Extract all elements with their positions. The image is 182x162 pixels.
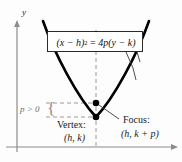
x-axis xyxy=(6,144,178,150)
y-axis-label: y xyxy=(22,8,26,17)
vertex-label: Vertex: xyxy=(57,120,86,130)
vertex-coordinates: (h, k) xyxy=(64,133,85,143)
focus-coordinates: (h, k + p) xyxy=(121,129,159,139)
y-axis xyxy=(14,20,20,152)
parabola-figure: y (x − h)2 = 4p(y − k) p > 0 { Vertex: (… xyxy=(0,0,182,162)
equation-lhs-base: (x − h) xyxy=(56,37,84,48)
equation-box: (x − h)2 = 4p(y − k) xyxy=(47,31,143,52)
vertex-point xyxy=(93,114,100,121)
equation-rhs: 4p(y − k) xyxy=(98,37,135,48)
p-brace-icon: { xyxy=(47,100,55,117)
equation-leader-line-second xyxy=(137,52,140,62)
equation-text: (x − h)2 = 4p(y − k) xyxy=(48,32,144,53)
focus-label: Focus: xyxy=(123,115,150,125)
focus-point xyxy=(93,100,100,107)
p-condition-label: p > 0 xyxy=(20,105,40,114)
